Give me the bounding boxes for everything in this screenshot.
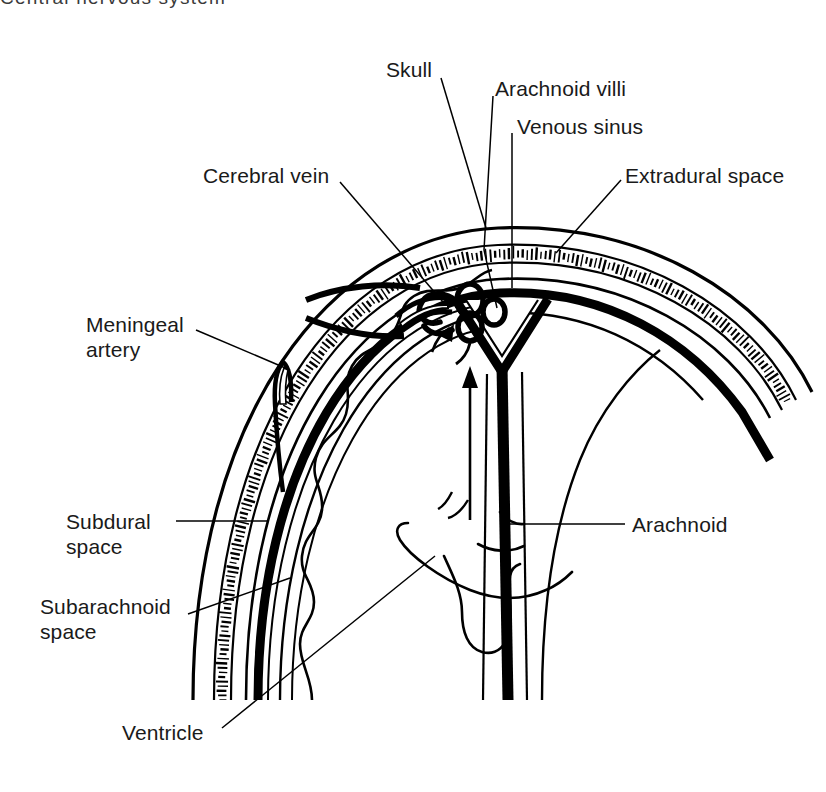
diploe-tick (224, 608, 231, 609)
diploe-tick (586, 257, 587, 264)
diploe-tick (594, 258, 596, 268)
diploe-tick (476, 253, 477, 261)
diploe-tick (254, 473, 261, 475)
diploe-tick (257, 454, 269, 459)
diploe-tick (545, 251, 546, 259)
diploe-tick (236, 530, 246, 532)
diploe-tick (263, 442, 272, 446)
diploe-tick (305, 370, 311, 374)
diploe-tick (671, 289, 674, 295)
diploe-tick (228, 571, 239, 573)
arachnoid-mater (280, 313, 703, 700)
diploe-tick (232, 549, 243, 551)
figure-root: Central nervous system (0, 0, 826, 792)
diploe-tick (659, 280, 663, 289)
diploe-tick (603, 260, 606, 272)
diploe-tick (263, 447, 271, 450)
diploe-tick (421, 265, 426, 277)
diploe-tick (608, 263, 610, 270)
diploe-tick (216, 663, 227, 664)
diploe-tick (236, 535, 244, 537)
diploe-tick (776, 386, 784, 391)
diploe-tick (220, 617, 231, 618)
diploe-tick (386, 288, 390, 294)
diploe-tick (655, 279, 658, 287)
diploe-tick (241, 503, 252, 506)
diploe-tick (599, 258, 602, 269)
diploe-tick (234, 540, 241, 542)
diploe-tick (220, 649, 228, 650)
diploe-tick (254, 463, 263, 466)
diploe-tick (249, 486, 258, 489)
diploe-tick (349, 316, 354, 321)
diploe-tick (440, 260, 443, 271)
diploe-tick (568, 254, 569, 262)
diploe-tick (679, 291, 684, 300)
diploe-tick (410, 273, 414, 281)
diploe-tick (427, 267, 430, 274)
diploe-tick (435, 261, 438, 270)
diploe-tick (218, 640, 229, 641)
diploe-tick (481, 251, 482, 261)
diploe-tick (728, 327, 733, 332)
diploe-tick (355, 309, 362, 316)
diploe-tick (322, 342, 330, 348)
label-subarachnoid-space: Subarachnoid space (40, 594, 171, 644)
diploe-tick (784, 399, 790, 402)
diploe-tick (454, 257, 456, 265)
diploe-tick (296, 381, 304, 386)
diploe-tick (223, 603, 231, 604)
diploe-tick (564, 253, 565, 260)
diploe-tick (219, 612, 232, 613)
diploe-tick (559, 250, 561, 263)
diploe-tick (227, 566, 239, 568)
leader-meningeal-artery (196, 330, 290, 370)
diploe-tick (283, 405, 290, 409)
leader-skull (441, 78, 486, 228)
diploe-tick (694, 302, 699, 309)
diploe-tick (370, 297, 375, 304)
diploe-tick (773, 379, 779, 383)
diploe-tick (217, 658, 230, 659)
diploe-tick (532, 249, 533, 260)
diploe-tick (262, 452, 269, 455)
label-arachnoid-villi: Arachnoid villi (495, 76, 626, 101)
diploe-tick (616, 265, 619, 274)
diploe-tick (219, 645, 229, 646)
diploe-tick (691, 299, 695, 305)
diploe-tick (244, 499, 256, 503)
diploe-tick (254, 468, 262, 471)
diploe-tick (462, 252, 464, 263)
meninges-diagram (0, 0, 826, 792)
diploe-tick (621, 264, 624, 275)
diploe-tick (472, 253, 473, 260)
diploe-tick (230, 562, 237, 563)
diploe-tick (221, 631, 228, 632)
label-ventricle: Ventricle (122, 720, 203, 745)
diploe-tick (744, 343, 749, 348)
diploe-tick (675, 290, 679, 297)
diploe-tick (230, 553, 240, 555)
diploe-tick (581, 254, 583, 266)
diploe-tick (449, 258, 451, 265)
diploe-tick (227, 580, 235, 581)
label-venous-sinus: Venous sinus (517, 114, 643, 139)
diploe-tick (310, 362, 318, 368)
diploe-tick (226, 576, 236, 578)
diploe-tick (761, 364, 768, 369)
label-skull: Skull (386, 57, 432, 82)
diploe-tick (490, 250, 491, 263)
diploe-tick (764, 366, 772, 372)
diploe-tick (536, 247, 537, 260)
diploe-tick (367, 301, 371, 307)
diploe-tick (541, 252, 542, 259)
diploe-tick (731, 329, 737, 335)
diploe-tick (306, 365, 313, 370)
diploe-tick (374, 295, 380, 303)
label-cerebral-vein: Cerebral vein (203, 163, 329, 188)
diploe-tick (710, 312, 714, 318)
diploe-tick (293, 384, 300, 388)
diploe-tick (277, 412, 288, 418)
diploe-tick (666, 283, 672, 294)
villi-stalk (456, 343, 470, 364)
